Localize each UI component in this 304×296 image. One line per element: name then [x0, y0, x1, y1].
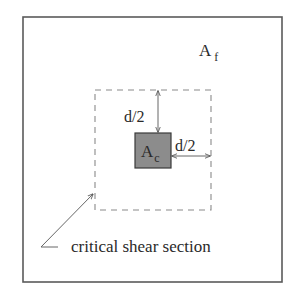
footing-plan-diagram: Af Ac d/2 d/2 critical shear section	[0, 0, 304, 296]
diagram-canvas: Af Ac d/2 d/2 critical shear section	[0, 0, 304, 296]
vertical-offset-label: d/2	[124, 108, 144, 125]
footing-area-label: Af	[199, 41, 218, 64]
horizontal-offset-label: d/2	[175, 137, 195, 154]
critical-section-label: critical shear section	[71, 237, 211, 256]
